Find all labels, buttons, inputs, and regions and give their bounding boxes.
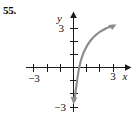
x-axis-label: x <box>122 70 128 82</box>
y-axis-arrowhead-icon <box>70 12 77 19</box>
y-tick-label-pos3: 3 <box>59 22 65 34</box>
plot-svg: y x −3 3 3 −3 <box>0 0 135 120</box>
x-tick-label-neg3: −3 <box>28 72 40 84</box>
x-tick-label-pos3: 3 <box>110 70 116 82</box>
coordinate-plot: y x −3 3 3 −3 <box>0 0 135 120</box>
plot-curve <box>74 26 112 101</box>
y-tick-label-neg3: −3 <box>54 101 66 113</box>
curve-arrowhead-lower-icon <box>71 97 78 105</box>
exercise-figure: 55. <box>0 0 135 120</box>
